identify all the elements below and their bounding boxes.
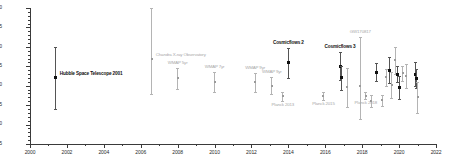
- marker: [346, 86, 348, 88]
- error-cap-lower: [287, 78, 290, 79]
- y-tick-minor: [28, 55, 30, 56]
- marker: [417, 96, 419, 98]
- error-cap-upper: [287, 48, 290, 49]
- x-tick-label: 2022: [419, 150, 453, 155]
- x-tick: [104, 144, 105, 148]
- hubble-constant-timeline-chart: 5560657075808590 20002002200420062008201…: [0, 0, 454, 165]
- y-tick-minor: [28, 117, 30, 118]
- point-annotation: Chandra X-ray Observatory: [156, 53, 206, 57]
- error-cap-upper: [176, 68, 179, 69]
- y-tick-minor: [28, 43, 30, 44]
- marker: [282, 95, 284, 97]
- point-annotation: Planck 2015: [312, 102, 335, 106]
- point-annotation: WMAP 5yr: [168, 61, 188, 65]
- error-cap-lower: [54, 109, 57, 110]
- x-tick: [251, 144, 252, 148]
- x-tick: [67, 144, 68, 148]
- x-tick-minor: [270, 144, 271, 146]
- marker: [254, 81, 256, 83]
- error-cap-lower: [340, 90, 343, 91]
- y-tick-minor: [28, 140, 30, 141]
- plot-area: 5560657075808590 20002002200420062008201…: [30, 8, 436, 144]
- error-cap-upper: [388, 57, 391, 58]
- y-tick-label: 75: [0, 64, 2, 69]
- y-tick-label: 80: [0, 45, 2, 50]
- y-tick-minor: [28, 59, 30, 60]
- y-tick: [26, 125, 30, 126]
- x-tick-label: 2018: [345, 150, 379, 155]
- x-tick-minor: [85, 144, 86, 146]
- error-cap-lower: [416, 113, 419, 114]
- error-cap-upper: [346, 68, 349, 69]
- y-tick-minor: [28, 109, 30, 110]
- marker: [340, 76, 343, 79]
- error-bar: [151, 8, 152, 93]
- y-tick: [26, 66, 30, 67]
- error-cap-upper: [414, 62, 417, 63]
- y-tick-minor: [28, 20, 30, 21]
- x-tick-minor: [344, 144, 345, 146]
- marker: [322, 95, 324, 97]
- x-tick-label: 2016: [308, 150, 342, 155]
- x-tick: [325, 144, 326, 148]
- x-tick-label: 2004: [87, 150, 121, 155]
- y-tick: [26, 8, 30, 9]
- y-tick-label: 65: [0, 103, 2, 108]
- y-tick-minor: [28, 121, 30, 122]
- error-cap-upper: [359, 37, 362, 38]
- y-tick: [26, 86, 30, 87]
- y-tick-minor: [28, 39, 30, 40]
- marker: [381, 99, 383, 101]
- x-tick-minor: [381, 144, 382, 146]
- x-tick-label: 2008: [161, 150, 195, 155]
- error-cap-upper: [401, 66, 404, 67]
- y-tick-minor: [28, 93, 30, 94]
- y-tick-minor: [28, 97, 30, 98]
- y-tick-minor: [28, 90, 30, 91]
- y-tick-label: 70: [0, 83, 2, 88]
- error-cap-upper: [340, 66, 343, 67]
- error-cap-upper: [270, 77, 273, 78]
- y-tick-minor: [28, 136, 30, 137]
- y-tick-minor: [28, 101, 30, 102]
- error-cap-lower: [390, 98, 393, 99]
- y-tick-label: 60: [0, 122, 2, 127]
- error-cap-upper: [254, 73, 257, 74]
- marker: [54, 76, 57, 79]
- y-tick-minor: [28, 74, 30, 75]
- error-cap-lower: [401, 81, 404, 82]
- point-annotation: WMAP 9yr: [262, 70, 282, 74]
- x-tick-label: 2010: [198, 150, 232, 155]
- error-cap-lower: [375, 81, 378, 82]
- x-tick-label: 2000: [13, 150, 47, 155]
- y-tick-minor: [28, 51, 30, 52]
- error-cap-lower: [370, 107, 373, 108]
- error-cap-upper: [390, 72, 393, 73]
- error-cap-upper: [339, 52, 342, 53]
- x-tick-minor: [48, 144, 49, 146]
- marker: [405, 75, 407, 77]
- point-annotation: Hubble Space Telescope 2001: [60, 72, 123, 77]
- error-cap-lower: [405, 88, 408, 89]
- y-tick-label: 55: [0, 142, 2, 147]
- x-tick: [215, 144, 216, 148]
- error-cap-lower: [346, 107, 349, 108]
- x-tick: [178, 144, 179, 148]
- x-tick: [399, 144, 400, 148]
- y-tick-minor: [28, 35, 30, 36]
- error-cap-upper: [322, 92, 325, 93]
- y-tick: [26, 47, 30, 48]
- error-cap-lower: [359, 119, 362, 120]
- error-cap-upper: [415, 69, 418, 70]
- x-tick: [362, 144, 363, 148]
- x-tick-minor: [196, 144, 197, 146]
- point-annotation: Cosmicflows 2: [273, 41, 304, 46]
- error-cap-upper: [54, 47, 57, 48]
- error-cap-upper: [396, 66, 399, 67]
- y-tick: [26, 105, 30, 106]
- marker: [177, 77, 179, 79]
- error-cap-lower: [254, 92, 257, 93]
- error-cap-upper: [364, 92, 367, 93]
- marker: [370, 100, 372, 102]
- y-tick-label: 90: [0, 6, 2, 11]
